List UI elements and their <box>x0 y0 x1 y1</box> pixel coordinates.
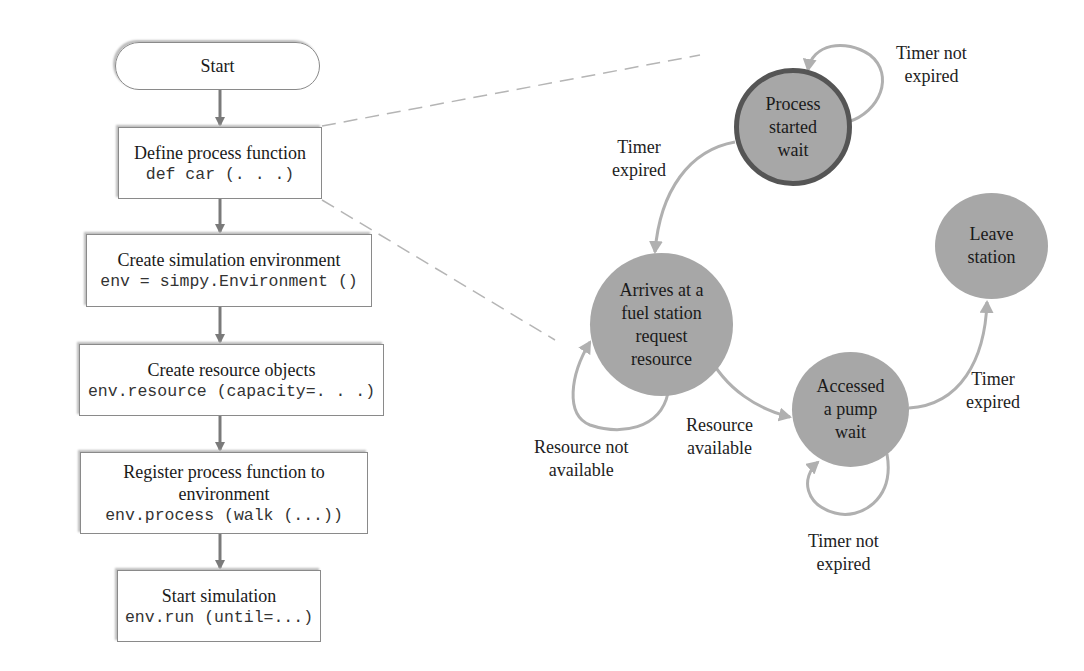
step-title: Start simulation <box>162 585 277 607</box>
step-create-environment: Create simulation environment env = simp… <box>86 234 372 307</box>
state-label-line: fuel station <box>620 302 704 325</box>
label-timer-expired-1: Timer expired <box>612 136 666 182</box>
state-label-line: station <box>968 246 1016 269</box>
state-arrives-fuel-station: Arrives at a fuel station request resour… <box>590 253 733 396</box>
state-label-line: Process <box>766 93 821 116</box>
state-label-line: Arrives at a <box>620 279 704 302</box>
step-code: def car (. . .) <box>146 164 295 185</box>
step-code: env = simpy.Environment () <box>100 271 357 292</box>
step-register-process: Register process function to environment… <box>80 452 368 534</box>
state-label-line: resource <box>620 348 704 371</box>
step-code: env.run (until=...) <box>125 607 313 628</box>
state-label-line: started <box>766 116 821 139</box>
state-label-line: request <box>620 325 704 348</box>
step-start-simulation: Start simulation env.run (until=...) <box>117 570 321 642</box>
label-timer-not-expired-2: Timer not expired <box>808 530 879 576</box>
label-timer-not-expired-1: Timer not expired <box>896 42 967 88</box>
step-title-line-1: Register process function to <box>123 461 324 483</box>
start-terminal: Start <box>115 42 320 90</box>
state-label-line: a pump <box>817 398 885 421</box>
step-title: Create resource objects <box>148 359 316 381</box>
step-create-resource: Create resource objects env.resource (ca… <box>79 344 384 416</box>
step-code: env.resource (capacity=. . .) <box>88 381 375 402</box>
label-timer-expired-2: Timer expired <box>966 368 1020 414</box>
state-label-line: Accessed <box>817 375 885 398</box>
step-title: Create simulation environment <box>118 249 341 271</box>
state-accessed-pump: Accessed a pump wait <box>792 352 909 467</box>
state-label-line: Leave <box>968 223 1016 246</box>
state-leave-station: Leave station <box>935 193 1048 299</box>
step-title-line-2: environment <box>179 483 270 505</box>
state-process-started: Process started wait <box>734 68 852 186</box>
start-label: Start <box>201 56 235 77</box>
step-title: Define process function <box>134 142 306 164</box>
state-label-line: wait <box>817 421 885 444</box>
step-code: env.process (walk (...)) <box>105 505 343 526</box>
step-define-process: Define process function def car (. . .) <box>118 127 322 199</box>
label-resource-not-available: Resource not available <box>534 436 628 482</box>
state-label-line: wait <box>766 139 821 162</box>
label-resource-available: Resource available <box>686 414 753 460</box>
